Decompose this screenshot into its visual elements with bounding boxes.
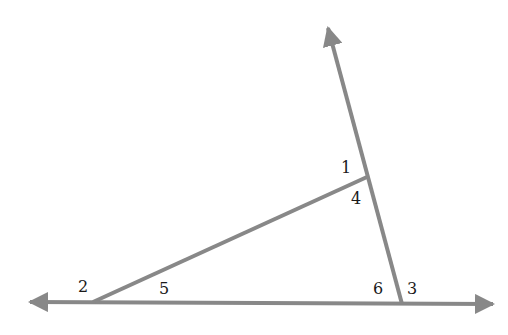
- angle-label-6: 6: [373, 279, 383, 298]
- triangle-exterior-angles-diagram: 1 4 2 5 6 3: [0, 0, 508, 335]
- triangle-side-line: [93, 177, 367, 302]
- angle-label-5: 5: [159, 279, 169, 298]
- angle-label-2: 2: [78, 277, 88, 296]
- angle-label-3: 3: [407, 279, 417, 298]
- angle-label-4: 4: [351, 189, 361, 208]
- base-line: [30, 302, 493, 304]
- angle-label-1: 1: [341, 158, 351, 177]
- transversal-line: [328, 28, 402, 304]
